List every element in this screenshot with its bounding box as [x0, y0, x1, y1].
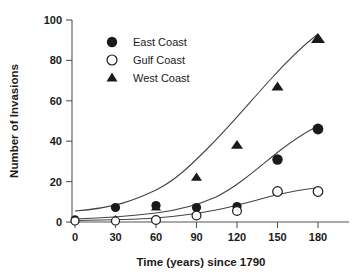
y-tick-label-0: 0	[56, 216, 62, 228]
data-point-east-60	[151, 201, 160, 210]
y-tick-label-60: 60	[50, 95, 62, 107]
x-tick-label-180: 180	[309, 231, 327, 243]
chart-container: 0 20 40 60 80 100 0 30 60 90 120 150 180…	[0, 0, 361, 280]
data-point-gulf-90	[192, 211, 201, 220]
data-point-gulf-60	[152, 216, 161, 225]
x-tick-label-120: 120	[228, 231, 246, 243]
data-point-gulf-120	[233, 207, 242, 216]
x-tick-label-150: 150	[268, 231, 286, 243]
invasions-scatter-chart: 0 20 40 60 80 100 0 30 60 90 120 150 180…	[0, 0, 361, 280]
data-point-gulf-180	[313, 187, 323, 197]
x-tick-label-60: 60	[150, 231, 162, 243]
x-tick-label-30: 30	[109, 231, 121, 243]
y-tick-label-40: 40	[50, 135, 62, 147]
x-tick-label-90: 90	[190, 231, 202, 243]
data-point-east-180	[313, 124, 324, 135]
data-point-gulf-0	[71, 217, 79, 225]
legend-marker-filled-circle-icon	[107, 37, 117, 47]
data-point-east-150	[272, 154, 282, 164]
legend-label-gulf-coast: Gulf Coast	[133, 54, 185, 66]
data-point-east-30	[111, 203, 120, 212]
data-point-gulf-30	[112, 217, 120, 225]
x-tick-label-0: 0	[72, 231, 78, 243]
legend-label-west-coast: West Coast	[133, 72, 190, 84]
y-tick-label-100: 100	[44, 14, 62, 26]
legend-marker-open-circle-icon	[107, 55, 117, 65]
y-tick-label-20: 20	[50, 176, 62, 188]
legend-label-east-coast: East Coast	[133, 36, 187, 48]
data-point-gulf-150	[273, 187, 283, 197]
y-axis-title: Number of Invasions	[8, 64, 20, 178]
y-tick-label-80: 80	[50, 54, 62, 66]
x-axis-title: Time (years) since 1790	[137, 256, 266, 268]
